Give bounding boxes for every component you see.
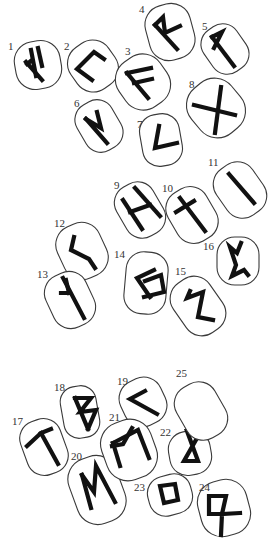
rune-stone-1: 1 (8, 37, 65, 92)
stone-number-label: 6 (74, 97, 80, 109)
stone-number-label: 16 (203, 240, 215, 252)
stone-number-label: 14 (114, 248, 126, 260)
stone-number-label: 22 (160, 426, 171, 438)
stone-outline (60, 32, 126, 99)
stone-number-label: 8 (189, 78, 195, 90)
stone-outline (144, 470, 197, 520)
rune-stone-6: 6 (69, 93, 130, 158)
rune-stone-2: 2 (60, 32, 126, 99)
stone-number-label: 12 (54, 217, 65, 229)
stone-number-label: 10 (162, 182, 174, 194)
stone-number-label: 17 (12, 415, 24, 427)
stone-number-label: 2 (64, 40, 70, 52)
rune-stone-16: 16 (203, 237, 259, 285)
stone-number-label: 20 (71, 450, 83, 462)
rune-stone-14: 14 (114, 248, 170, 316)
stone-number-label: 3 (125, 45, 131, 57)
stone-number-label: 4 (139, 3, 145, 15)
stone-number-label: 7 (137, 118, 143, 130)
rune-stones-diagram: 1234567891011121314151617181920212223242… (0, 0, 273, 553)
stone-outline (137, 111, 185, 169)
rune-stone-8: 8 (177, 69, 254, 147)
stone-outline (11, 37, 65, 92)
rune-stone-5: 5 (194, 17, 255, 81)
stone-number-label: 23 (134, 481, 146, 493)
stone-number-label: 24 (199, 481, 211, 493)
stone-number-label: 1 (8, 40, 14, 52)
stone-number-label: 9 (114, 179, 120, 191)
rune-stone-23: 23 (134, 470, 196, 520)
stone-number-label: 11 (208, 156, 219, 168)
stones-layer: 1234567891011121314151617181920212223242… (8, 0, 273, 542)
stone-number-label: 18 (54, 381, 66, 393)
stone-number-label: 13 (37, 268, 49, 280)
stone-number-label: 19 (117, 375, 129, 387)
rune-stone-7: 7 (137, 111, 185, 169)
stone-number-label: 25 (176, 367, 188, 379)
stone-number-label: 15 (175, 265, 187, 277)
stone-outline (217, 237, 259, 285)
rune-stone-24: 24 (193, 474, 256, 541)
stone-number-label: 21 (109, 411, 120, 423)
stone-number-label: 5 (202, 20, 208, 32)
